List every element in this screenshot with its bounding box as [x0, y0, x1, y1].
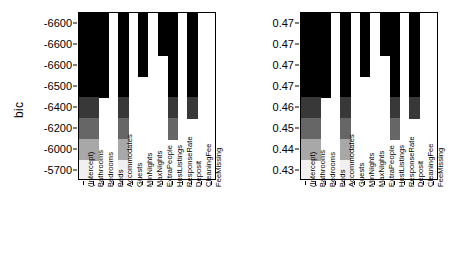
regsubsets-plot-container: bic -6600-6600-6600-6500-6400-6200-6000-…: [0, 0, 454, 260]
x-tick-mark: [211, 181, 212, 185]
x-tick-mark: [315, 181, 316, 185]
x-tick-mark: [335, 181, 336, 185]
x-tick-mark: [433, 181, 434, 185]
x-tick-mark: [423, 181, 424, 185]
x-tick-label: ResponseRate: [185, 136, 194, 187]
panel-bic: bic -6600-6600-6600-6500-6400-6200-6000-…: [0, 0, 227, 260]
x-tick-mark: [152, 181, 153, 185]
x-tick-label: FeeMissing: [436, 148, 445, 187]
x-tick-mark: [354, 181, 355, 185]
x-axis-ticks-adjr2: (Intercept)BathroomsBedroomsBedsAccommod…: [227, 0, 454, 260]
x-tick-label: Accommodates: [347, 134, 356, 187]
x-tick-label: ResponseRate: [407, 136, 416, 187]
x-tick-mark: [344, 181, 345, 185]
x-tick-mark: [364, 181, 365, 185]
x-tick-mark: [162, 181, 163, 185]
x-tick-mark: [394, 181, 395, 185]
x-tick-mark: [413, 181, 414, 185]
x-tick-mark: [182, 181, 183, 185]
x-tick-mark: [172, 181, 173, 185]
x-tick-mark: [132, 181, 133, 185]
panel-adjr2: adjr2 0.470.470.470.470.460.450.440.43 (…: [227, 0, 454, 260]
x-tick-mark: [325, 181, 326, 185]
x-tick-mark: [404, 181, 405, 185]
x-tick-label: Accommodates: [125, 134, 134, 187]
x-tick-mark: [191, 181, 192, 185]
x-tick-mark: [305, 181, 306, 185]
x-tick-mark: [93, 181, 94, 185]
x-tick-mark: [142, 181, 143, 185]
x-tick-mark: [374, 181, 375, 185]
x-tick-label: FeeMissing: [214, 148, 223, 187]
x-tick-mark: [122, 181, 123, 185]
x-tick-mark: [201, 181, 202, 185]
x-axis-ticks-bic: (Intercept)BathroomsBedroomsBedsAccommod…: [0, 0, 227, 260]
x-tick-mark: [384, 181, 385, 185]
x-tick-mark: [83, 181, 84, 185]
x-tick-mark: [113, 181, 114, 185]
x-tick-mark: [103, 181, 104, 185]
